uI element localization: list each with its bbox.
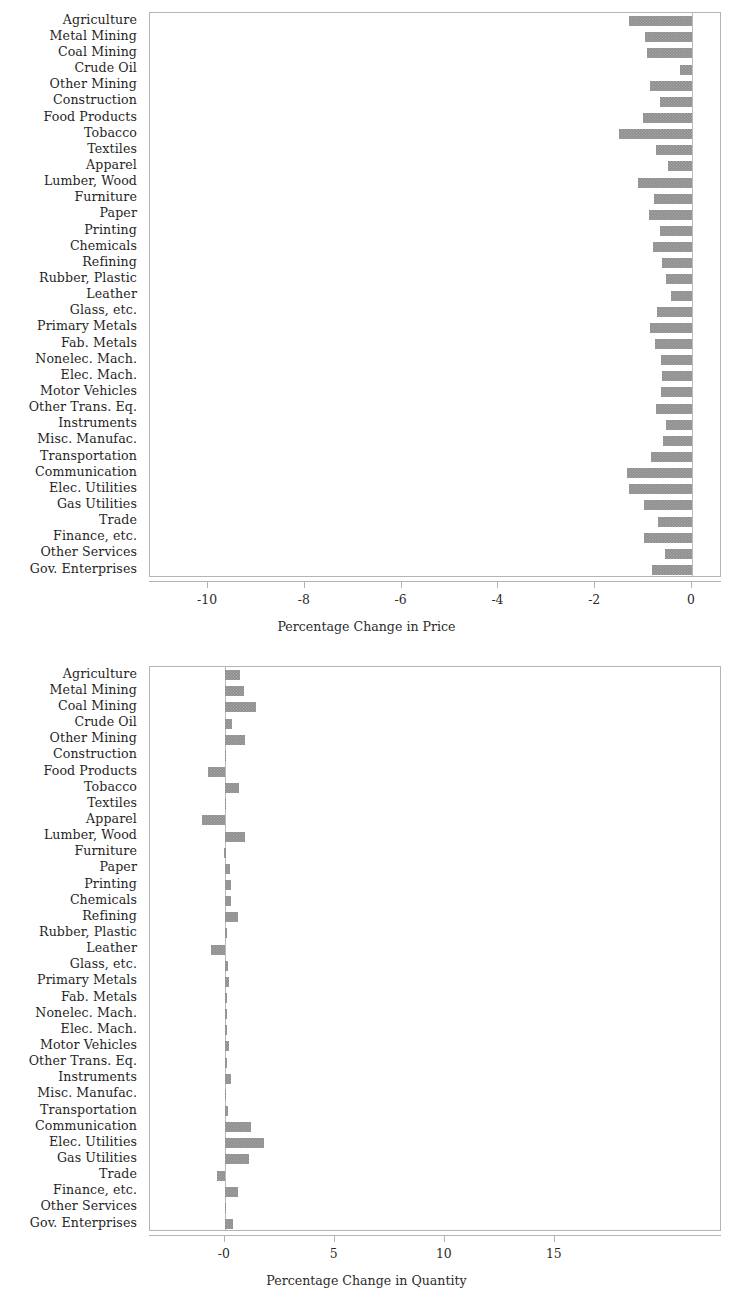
bar [225, 1041, 229, 1051]
bar [225, 896, 231, 906]
price-chart-block: AgricultureMetal MiningCoal MiningCrude … [0, 0, 733, 656]
category-label: Elec. Mach. [61, 369, 137, 382]
category-label: Other Mining [50, 732, 137, 745]
bar [225, 977, 229, 987]
category-label: Crude Oil [74, 62, 137, 75]
x-axis-tick-label: -10 [197, 592, 217, 607]
bar [225, 1219, 233, 1229]
category-label: Fab. Metals [61, 991, 137, 1004]
quantity-chart-x-axis-title: Percentage Change in Quantity [0, 1273, 733, 1288]
x-axis-tick-label: -6 [395, 592, 407, 607]
category-label: Leather [86, 942, 137, 955]
bar [666, 274, 692, 284]
category-label: Construction [53, 94, 137, 107]
category-label: Other Mining [50, 78, 137, 91]
x-axis-tick-label: -8 [298, 592, 310, 607]
category-label: Other Services [40, 1200, 137, 1213]
bar [656, 145, 692, 155]
bar [202, 815, 224, 825]
category-label: Primary Metals [37, 320, 137, 333]
category-label: Gas Utilities [57, 1152, 137, 1165]
x-axis-tick [444, 1235, 445, 1242]
bar [225, 799, 226, 809]
category-label: Chemicals [70, 894, 137, 907]
bar [225, 1058, 227, 1068]
bar [225, 864, 230, 874]
bar [225, 832, 245, 842]
bar [643, 113, 692, 123]
quantity-chart-plot-area [149, 666, 721, 1231]
bar [225, 880, 232, 890]
category-label: Lumber, Wood [44, 829, 137, 842]
category-label: Coal Mining [58, 700, 137, 713]
category-label: Metal Mining [50, 30, 137, 43]
category-label: Lumber, Wood [44, 175, 137, 188]
price-chart-x-axis-title: Percentage Change in Price [0, 619, 733, 634]
category-label: Gov. Enterprises [30, 1217, 137, 1230]
category-label: Tobacco [84, 127, 137, 140]
bar [662, 371, 692, 381]
category-label: Elec. Utilities [49, 482, 137, 495]
category-label: Transportation [40, 450, 137, 463]
bar [647, 48, 692, 58]
category-label: Other Trans. Eq. [29, 401, 137, 414]
bar [225, 1074, 231, 1084]
bar [650, 81, 692, 91]
category-label: Apparel [86, 813, 137, 826]
category-label: Elec. Utilities [49, 1136, 137, 1149]
price-chart-zero-line [692, 13, 693, 576]
bar [225, 751, 226, 761]
category-label: Gas Utilities [57, 498, 137, 511]
quantity-chart-x-axis-line [149, 1235, 721, 1236]
bar [225, 1090, 226, 1100]
bar [661, 355, 692, 365]
x-axis-tick-label: 10 [436, 1246, 452, 1261]
category-label: Paper [100, 207, 137, 220]
category-label: Construction [53, 748, 137, 761]
bar [654, 194, 692, 204]
category-label: Textiles [87, 797, 137, 810]
bar [671, 291, 692, 301]
category-label: Glass, etc. [70, 304, 137, 317]
category-label: Gov. Enterprises [30, 563, 137, 576]
category-label: Other Services [40, 546, 137, 559]
bar [649, 210, 692, 220]
price-chart-x-axis-line [149, 581, 721, 582]
x-axis-tick [334, 1235, 335, 1242]
bar [666, 420, 692, 430]
x-axis-tick [554, 1235, 555, 1242]
bar [225, 961, 229, 971]
bar [217, 1171, 224, 1181]
bar [225, 1122, 251, 1132]
bar [225, 1025, 228, 1035]
category-label: Rubber, Plastic [39, 272, 137, 285]
bar [657, 307, 692, 317]
category-label: Agriculture [63, 668, 137, 681]
category-label: Trade [99, 514, 137, 527]
category-label: Motor Vehicles [40, 385, 137, 398]
category-label: Other Trans. Eq. [29, 1055, 137, 1068]
bar [225, 928, 227, 938]
x-axis-tick-label: 15 [546, 1246, 562, 1261]
bar [225, 702, 256, 712]
category-label: Glass, etc. [70, 958, 137, 971]
bar [653, 242, 692, 252]
bar [663, 436, 692, 446]
bar [658, 517, 692, 527]
category-label: Refining [82, 910, 137, 923]
category-label: Printing [84, 224, 137, 237]
category-label: Textiles [87, 143, 137, 156]
category-label: Nonelec. Mach. [35, 353, 137, 366]
category-label: Elec. Mach. [61, 1023, 137, 1036]
bar [225, 686, 244, 696]
bar [225, 993, 227, 1003]
category-label: Refining [82, 256, 137, 269]
category-label: Furniture [74, 191, 137, 204]
bar [644, 533, 692, 543]
category-label: Metal Mining [50, 684, 137, 697]
bar [619, 129, 692, 139]
bar [225, 1138, 264, 1148]
bar [211, 945, 225, 955]
bar [680, 65, 692, 75]
bar [644, 500, 692, 510]
